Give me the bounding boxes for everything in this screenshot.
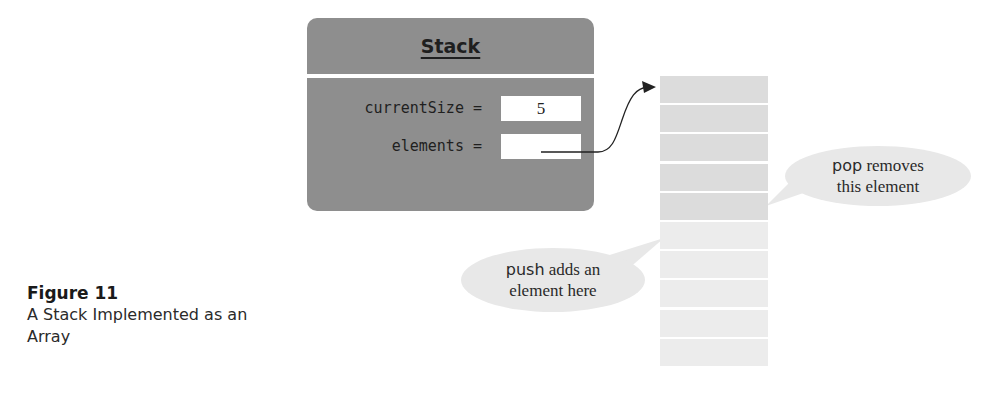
pop-callout: pop removes this element (785, 146, 971, 206)
pop-text-1: removes (862, 156, 924, 175)
figure-description: A Stack Implemented as an Array (27, 304, 287, 348)
pop-keyword: pop (832, 156, 862, 175)
push-text-1: adds an (545, 260, 601, 279)
figure-caption: Figure 11 A Stack Implemented as an Arra… (27, 282, 287, 348)
arrow-head-icon (642, 81, 656, 93)
push-text-2: element here (509, 281, 596, 300)
pop-text-2: this element (837, 177, 920, 196)
figure-number: Figure 11 (27, 282, 287, 304)
push-keyword: push (506, 260, 545, 279)
arrow-line (541, 87, 648, 152)
push-callout: push adds an element here (461, 248, 645, 312)
